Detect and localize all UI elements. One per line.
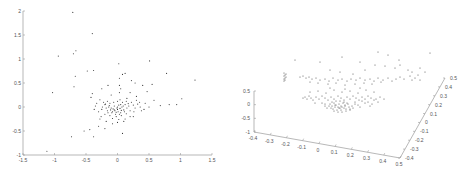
y-tick-label: -0.2: [415, 137, 424, 143]
data-point: [374, 92, 375, 93]
data-point: [372, 84, 373, 85]
data-point: [345, 89, 346, 90]
x-tick-label: 0.4: [379, 158, 386, 164]
data-point: [320, 62, 321, 63]
data-point: [425, 72, 426, 73]
data-point: [364, 83, 365, 84]
data-point: [362, 101, 363, 102]
data-point: [344, 102, 345, 103]
y-tick-label: 0.5: [450, 75, 457, 81]
data-point: [133, 111, 134, 112]
data-point: [346, 111, 347, 112]
z-tick-label: 0.5: [243, 88, 250, 94]
data-point: [334, 111, 335, 112]
data-point: [318, 91, 319, 92]
data-point: [375, 65, 376, 66]
data-point: [92, 93, 93, 94]
y-tick-label: 2: [18, 8, 21, 14]
data-point: [101, 116, 102, 117]
data-point: [108, 106, 109, 107]
data-point: [392, 81, 393, 82]
data-point: [89, 129, 90, 130]
data-point: [160, 105, 161, 106]
data-point: [123, 105, 124, 106]
data-point: [124, 111, 125, 112]
data-point: [353, 96, 354, 97]
data-point: [75, 50, 76, 51]
data-point: [131, 80, 132, 81]
x-tick-label: 0.5: [146, 157, 153, 163]
data-point: [75, 76, 76, 77]
data-point: [420, 68, 421, 69]
data-point: [338, 112, 339, 113]
data-point: [136, 96, 137, 97]
data-point: [111, 94, 112, 95]
data-point: [126, 107, 127, 108]
data-point: [123, 109, 124, 110]
data-point: [46, 151, 47, 152]
data-point: [52, 92, 53, 93]
x-tick-label: -1: [52, 157, 57, 163]
data-point: [311, 98, 312, 99]
data-point: [340, 101, 341, 102]
x-tick-label: -0.3: [265, 138, 274, 144]
data-point: [93, 70, 94, 71]
data-point: [353, 108, 354, 109]
x-tick-mark: [270, 133, 271, 135]
data-point: [331, 97, 332, 98]
data-point: [126, 98, 127, 99]
data-point: [130, 116, 131, 117]
y-tick-label: 0.4: [445, 84, 452, 90]
data-point: [286, 77, 287, 78]
data-point: [133, 105, 134, 106]
x-tick-mark: [303, 139, 304, 141]
right-x-ticks: -0.4-0.3-0.2-0.100.10.20.30.40.5: [249, 130, 403, 167]
y-tick-label: -0.5: [12, 128, 21, 134]
data-point: [399, 60, 400, 61]
data-point: [333, 78, 334, 79]
data-point: [340, 72, 341, 73]
data-point: [347, 103, 348, 104]
data-point: [107, 101, 108, 102]
x-tick-label: 1.5: [209, 157, 216, 163]
data-point: [126, 101, 127, 102]
data-point: [93, 136, 94, 137]
data-point: [336, 83, 337, 84]
data-point: [285, 80, 286, 81]
data-point: [122, 102, 123, 103]
data-point: [119, 92, 120, 93]
data-point: [329, 106, 330, 107]
data-point: [341, 98, 342, 99]
data-point: [101, 109, 102, 110]
data-point: [284, 73, 285, 74]
data-point: [365, 103, 366, 104]
data-point: [374, 100, 375, 101]
data-point: [388, 78, 389, 79]
data-point: [111, 107, 112, 108]
x-tick-label: 0.3: [363, 155, 370, 161]
left-scatter-plot: 21.510.50-0.5-1 -1.5-1-0.500.511.5: [12, 8, 215, 163]
data-point: [306, 78, 307, 79]
data-point: [352, 106, 353, 107]
data-point: [408, 70, 409, 71]
data-point: [330, 70, 331, 71]
data-point: [322, 103, 323, 104]
data-point: [300, 77, 301, 78]
data-point: [418, 75, 419, 76]
data-point: [358, 93, 359, 94]
x-tick-label: 0: [116, 157, 119, 163]
y-tick-label: -0.1: [420, 128, 429, 134]
x-tick-label: 0: [316, 147, 319, 153]
data-point: [372, 104, 373, 105]
data-point: [149, 60, 150, 61]
data-point: [365, 80, 366, 81]
x-tick-mark: [335, 144, 336, 146]
data-point: [319, 99, 320, 100]
y-tick-label: 0: [425, 119, 428, 125]
data-point: [332, 106, 333, 107]
x-tick-label: -0.1: [297, 144, 306, 150]
data-point: [356, 98, 357, 99]
data-point: [116, 116, 117, 117]
data-point: [355, 102, 356, 103]
data-point: [374, 81, 375, 82]
